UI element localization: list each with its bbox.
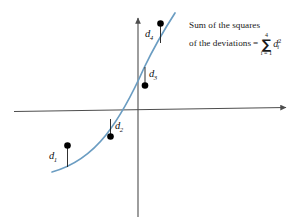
deviation-label-d2-sub: 2 bbox=[120, 126, 123, 133]
summation-operator: 4 ∑ i = 1 bbox=[261, 32, 272, 57]
deviation-label-d2: d2 bbox=[115, 120, 124, 131]
formula-text-line1: Sum of the squares bbox=[189, 20, 307, 32]
deviation-label-d3-sub: 3 bbox=[154, 74, 157, 81]
deviation-label-d4: d4 bbox=[145, 28, 154, 39]
data-point-d2 bbox=[107, 133, 114, 140]
deviation-label-d1: d1 bbox=[49, 150, 58, 161]
data-point-d4 bbox=[157, 20, 164, 27]
data-point-d3 bbox=[142, 82, 149, 89]
deviation-label-d4-sub: 4 bbox=[150, 34, 153, 41]
summation-lower-limit: i = 1 bbox=[261, 50, 272, 57]
summand-subscript: i bbox=[277, 43, 279, 50]
formula-line1-text: Sum of the squares bbox=[189, 20, 260, 30]
formula-line2-text: of the deviations bbox=[189, 38, 251, 50]
least-squares-figure: d1 d2 d3 d4 Sum of the squares of the de… bbox=[0, 0, 308, 220]
x-axis bbox=[14, 108, 286, 112]
data-point-d1 bbox=[64, 142, 71, 149]
formula-annotation: Sum of the squares of the deviations = 4… bbox=[189, 20, 307, 57]
equals-sign: = bbox=[253, 38, 258, 50]
deviation-label-d3: d3 bbox=[149, 68, 158, 79]
summand-term: di2 bbox=[273, 38, 283, 51]
deviation-d2-group bbox=[107, 119, 114, 140]
deviation-d1-group bbox=[64, 142, 71, 167]
deviation-label-d1-sub: 1 bbox=[54, 156, 57, 163]
sigma-icon: ∑ bbox=[262, 38, 271, 51]
formula-text-line2: of the deviations = 4 ∑ i = 1 di2 bbox=[189, 32, 307, 57]
regression-curve bbox=[52, 13, 175, 172]
summand-exponent: 2 bbox=[278, 37, 281, 44]
